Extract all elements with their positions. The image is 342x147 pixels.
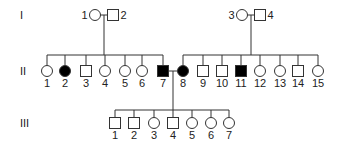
male-symbol bbox=[110, 118, 121, 129]
individual-label: 2 bbox=[62, 77, 68, 89]
individual-label: 1 bbox=[44, 77, 50, 89]
individual-label: 9 bbox=[200, 77, 206, 89]
male-symbol bbox=[293, 66, 304, 77]
generation-label-III: III bbox=[20, 117, 29, 129]
female-symbol bbox=[224, 118, 235, 129]
individual-label: 15 bbox=[312, 77, 324, 89]
female-symbol bbox=[90, 10, 101, 21]
individual-label: 12 bbox=[254, 77, 266, 89]
male-symbol bbox=[255, 10, 266, 21]
female-symbol bbox=[275, 66, 286, 77]
individual-label: 13 bbox=[274, 77, 286, 89]
individual-label: 6 bbox=[139, 77, 145, 89]
individual-label: 14 bbox=[292, 77, 304, 89]
affected-male-symbol bbox=[236, 66, 247, 77]
individual-label: 2 bbox=[121, 9, 127, 21]
individual-label: 5 bbox=[122, 77, 128, 89]
pedigree-canvas: IIIIII12341234567891011121314151234567 bbox=[0, 0, 342, 147]
individual-label: 2 bbox=[131, 129, 137, 141]
female-symbol bbox=[187, 118, 198, 129]
male-symbol bbox=[108, 10, 119, 21]
individual-label: 4 bbox=[102, 77, 108, 89]
female-symbol bbox=[313, 66, 324, 77]
individual-label: 11 bbox=[235, 77, 246, 89]
individual-label: 4 bbox=[268, 9, 274, 21]
male-symbol bbox=[217, 66, 228, 77]
female-symbol bbox=[120, 66, 131, 77]
female-symbol bbox=[137, 66, 148, 77]
female-symbol bbox=[100, 66, 111, 77]
affected-female-symbol bbox=[60, 66, 71, 77]
individual-label: 10 bbox=[216, 77, 228, 89]
female-symbol bbox=[255, 66, 266, 77]
individual-label: 7 bbox=[160, 77, 166, 89]
generation-label-I: I bbox=[20, 9, 23, 21]
female-symbol bbox=[206, 118, 217, 129]
female-symbol bbox=[237, 10, 248, 21]
affected-male-symbol bbox=[158, 66, 169, 77]
male-symbol bbox=[81, 66, 92, 77]
individual-label: 4 bbox=[170, 129, 176, 141]
generation-label-II: II bbox=[20, 65, 26, 77]
individual-label: 3 bbox=[228, 9, 234, 21]
female-symbol bbox=[42, 66, 53, 77]
individual-label: 8 bbox=[180, 77, 186, 89]
male-symbol bbox=[129, 118, 140, 129]
individual-label: 3 bbox=[83, 77, 89, 89]
individual-label: 6 bbox=[208, 129, 214, 141]
individual-label: 5 bbox=[189, 129, 195, 141]
male-symbol bbox=[168, 118, 179, 129]
affected-female-symbol bbox=[178, 66, 189, 77]
male-symbol bbox=[198, 66, 209, 77]
pedigree-diagram: IIIIII12341234567891011121314151234567 bbox=[0, 0, 342, 147]
individual-label: 1 bbox=[112, 129, 118, 141]
individual-label: 3 bbox=[151, 129, 157, 141]
individual-label: 7 bbox=[226, 129, 232, 141]
female-symbol bbox=[149, 118, 160, 129]
individual-label: 1 bbox=[81, 9, 87, 21]
